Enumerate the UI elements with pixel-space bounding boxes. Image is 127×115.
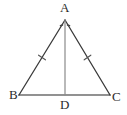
tick-mark-ac-icon <box>84 55 91 60</box>
vertex-label-a: A <box>60 1 69 14</box>
tick-mark-ab-icon <box>39 55 46 60</box>
vertex-label-d: D <box>60 98 69 111</box>
angle-mark-bad-icon <box>60 25 62 26</box>
angle-mark-dac-icon <box>67 25 69 26</box>
vertex-label-c: C <box>112 90 121 103</box>
geometry-figure: A B C D <box>0 0 127 115</box>
vertex-label-b: B <box>9 88 18 101</box>
